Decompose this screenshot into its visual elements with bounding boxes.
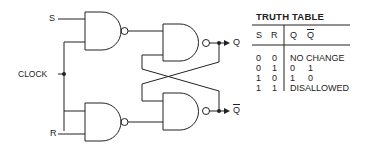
truth-table-title: TRUTH TABLE	[256, 12, 324, 22]
q-arrow-icon	[224, 40, 230, 46]
r-input-label: R	[50, 129, 57, 138]
header-r: R	[271, 31, 278, 40]
qbar-arrow-icon	[224, 108, 230, 114]
inverter-bubble-s	[121, 28, 128, 35]
row2-s: 0	[256, 64, 261, 73]
row3-q: 1	[290, 74, 295, 83]
clock-junction-dot	[62, 72, 66, 76]
row2-qbar: 1	[308, 64, 313, 73]
nand-gate-qbar	[163, 93, 199, 130]
row1-s: 0	[256, 54, 261, 63]
qbar-feedback-wire	[142, 55, 219, 111]
nand-gate-s	[85, 12, 121, 50]
row3-s: 1	[256, 74, 261, 83]
inverter-bubble-r	[121, 119, 128, 126]
nand-gate-q	[163, 24, 199, 61]
header-q: Q	[290, 31, 297, 40]
row4-s: 1	[256, 84, 261, 93]
q-junction-dot	[217, 41, 221, 45]
q-output-label: Q	[233, 38, 240, 47]
qbar-junction-dot	[217, 109, 221, 113]
row1-r: 0	[272, 54, 277, 63]
row2-r: 1	[272, 64, 277, 73]
row4-r: 1	[272, 84, 277, 93]
nand-gate-r	[85, 103, 121, 141]
row2-q: 0	[290, 64, 295, 73]
row3-qbar: 0	[308, 74, 313, 83]
header-s: S	[256, 31, 262, 40]
row1-result: NO CHANGE	[290, 54, 345, 63]
qbar-output-label: Q	[233, 106, 240, 115]
inverter-bubble-qbar	[203, 108, 210, 115]
header-qbar: Q	[307, 31, 314, 40]
row3-r: 0	[272, 74, 277, 83]
row4-result: DISALLOWED	[290, 84, 349, 93]
clock-input-label: CLOCK	[18, 70, 47, 79]
s-input-label: S	[49, 14, 55, 23]
inverter-bubble-q	[203, 40, 210, 47]
